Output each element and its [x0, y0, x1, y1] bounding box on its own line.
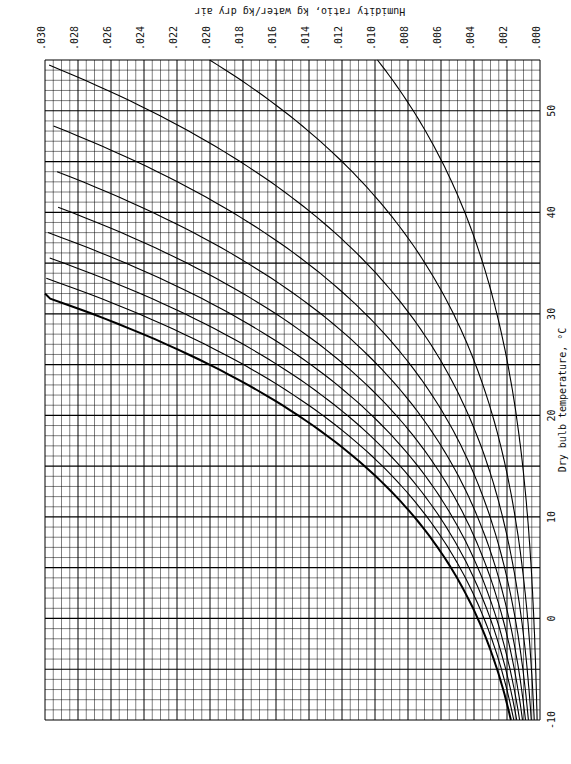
psychrometric-chart: -1001020304050.000.002.004.006.008.010.0…	[0, 0, 571, 764]
humidity-axis-title: Humidity ratio, kg water/kg dry air	[195, 6, 406, 17]
humidity-tick-label: .006	[432, 26, 443, 50]
drybulb-tick-label: 0	[546, 615, 557, 621]
humidity-tick-label: .016	[267, 26, 278, 50]
humidity-tick-label: .018	[234, 26, 245, 50]
humidity-tick-label: .010	[366, 26, 377, 50]
drybulb-tick-label: 50	[546, 105, 557, 117]
drybulb-tick-label: 40	[546, 206, 557, 218]
humidity-tick-label: .008	[399, 26, 410, 50]
humidity-tick-label: .000	[531, 26, 542, 50]
humidity-tick-label: .014	[300, 26, 311, 50]
drybulb-axis-title: Dry bulb temperature, °C	[557, 328, 568, 473]
drybulb-tick-label: 20	[546, 409, 557, 421]
humidity-tick-label: .024	[135, 26, 146, 50]
humidity-tick-label: .026	[102, 26, 113, 50]
humidity-tick-label: .028	[69, 26, 80, 50]
rh-curve-80	[50, 258, 517, 720]
humidity-tick-label: .020	[201, 26, 212, 50]
rh-curve-60	[58, 207, 522, 720]
drybulb-tick-label: -10	[546, 711, 557, 729]
rh-curve-40	[54, 126, 529, 720]
humidity-tick-label: .002	[498, 26, 509, 50]
humidity-tick-label: .030	[36, 26, 47, 50]
humidity-tick-label: .012	[333, 26, 344, 50]
chart-labels: -1001020304050.000.002.004.006.008.010.0…	[36, 6, 568, 729]
drybulb-tick-label: 30	[546, 308, 557, 320]
chart-grid	[45, 60, 540, 720]
humidity-tick-label: .004	[465, 26, 476, 50]
chart-curves	[45, 60, 537, 720]
humidity-tick-label: .022	[168, 26, 179, 50]
drybulb-tick-label: 10	[546, 511, 557, 523]
